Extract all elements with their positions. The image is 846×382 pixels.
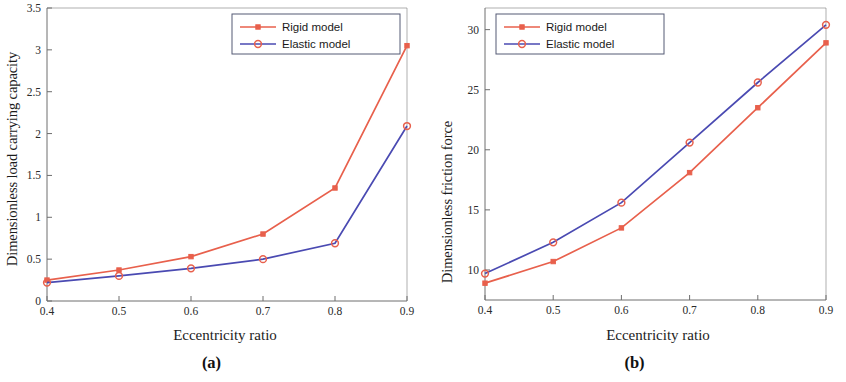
data-point-rigid [333,186,337,190]
plot-area-b: 10152025300.40.50.60.70.80.9Rigid modelE… [423,0,846,320]
data-point-rigid [551,259,555,263]
panel-caption-a: (a) [0,353,423,373]
data-point-rigid [117,268,121,272]
x-tick-label: 0.6 [184,305,199,317]
x-tick-label: 0.9 [819,304,834,316]
plot-area-a: 00.511.522.533.50.40.50.60.70.80.9Rigid … [0,0,423,320]
x-axis-label-a: Eccentricity ratio [40,327,410,344]
y-tick-label: 1 [35,211,41,223]
data-point-rigid [261,232,265,236]
legend-marker-rigid [520,25,524,29]
chart-panel-a: Dimensionless load carrying capacity 00.… [0,0,423,382]
chart-panel-b: Dimensionless friction force 10152025300… [423,0,846,382]
legend-label-elastic: Elastic model [282,38,350,50]
panel-caption-b: (b) [423,353,846,373]
data-point-rigid [756,106,760,110]
x-tick-label: 0.4 [478,304,493,316]
x-tick-label: 0.5 [112,305,127,317]
y-tick-label: 1.5 [27,169,42,181]
y-tick-label: 10 [468,264,480,276]
y-tick-label: 2.5 [27,86,42,98]
data-point-rigid [189,254,193,258]
data-point-rigid [824,41,828,45]
legend-marker-rigid [256,25,260,29]
data-point-rigid [687,170,691,174]
y-tick-label: 15 [468,204,480,216]
y-tick-label: 30 [468,24,480,36]
legend-label-rigid: Rigid model [282,21,343,33]
x-tick-label: 0.9 [400,305,415,317]
series-line-elastic [485,25,826,274]
series-line-elastic [47,126,407,283]
series-line-rigid [47,46,407,280]
y-tick-label: 20 [468,144,480,156]
data-point-rigid [405,43,409,47]
y-tick-label: 0.5 [27,253,42,265]
x-tick-label: 0.6 [614,304,629,316]
x-tick-label: 0.7 [256,305,271,317]
y-tick-label: 3 [35,44,41,56]
series-line-rigid [485,43,826,283]
data-point-rigid [483,281,487,285]
x-tick-label: 0.5 [546,304,561,316]
data-point-rigid [619,226,623,230]
legend-label-rigid: Rigid model [546,21,607,33]
y-tick-label: 2 [35,128,41,140]
x-tick-label: 0.8 [328,305,343,317]
y-tick-label: 25 [468,84,480,96]
x-tick-label: 0.4 [40,305,55,317]
x-tick-label: 0.7 [682,304,697,316]
x-tick-label: 0.8 [751,304,766,316]
figure-root: Dimensionless load carrying capacity 00.… [0,0,846,382]
x-axis-label-b: Eccentricity ratio [478,327,838,344]
legend-label-elastic: Elastic model [546,38,614,50]
y-tick-label: 3.5 [27,2,42,14]
